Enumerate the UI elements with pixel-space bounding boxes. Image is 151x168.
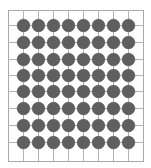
stone-circle: [62, 136, 75, 149]
stone-circle: [107, 85, 120, 98]
stone-circle: [122, 36, 135, 49]
stone-circle: [62, 85, 75, 98]
stone-circle: [92, 53, 105, 66]
stone-circle: [32, 85, 45, 98]
stone-circle: [77, 85, 90, 98]
stone-circle: [17, 102, 30, 115]
stone-circle: [92, 136, 105, 149]
stone-circle: [107, 102, 120, 115]
stone-circle: [62, 19, 75, 32]
stone-circle: [47, 36, 60, 49]
stone-circle: [47, 119, 60, 132]
stone-circle: [17, 53, 30, 66]
stone-circle: [62, 102, 75, 115]
stone-circle: [17, 19, 30, 32]
stone-circle: [62, 36, 75, 49]
stone-circle: [122, 119, 135, 132]
stone-circle: [122, 69, 135, 82]
stone-circle: [32, 53, 45, 66]
grid-diagram: [0, 0, 151, 168]
stone-circle: [107, 136, 120, 149]
stone-circle: [47, 85, 60, 98]
stone-circle: [32, 119, 45, 132]
stone-circle: [32, 36, 45, 49]
stone-circle: [122, 53, 135, 66]
stone-circle: [47, 19, 60, 32]
stone-circle: [92, 19, 105, 32]
stone-circle: [62, 53, 75, 66]
stone-circle: [32, 69, 45, 82]
stone-circle: [47, 53, 60, 66]
stone-circle: [32, 102, 45, 115]
stone-circle: [77, 119, 90, 132]
stone-circle: [92, 85, 105, 98]
stone-circle: [122, 102, 135, 115]
stone-circle: [77, 36, 90, 49]
stone-circle: [107, 36, 120, 49]
stone-circle: [77, 53, 90, 66]
stone-circle: [17, 136, 30, 149]
stone-circle: [62, 119, 75, 132]
stone-circle: [47, 102, 60, 115]
stone-circle: [107, 69, 120, 82]
stone-circle: [122, 19, 135, 32]
stone-circle: [92, 119, 105, 132]
stone-circle: [17, 36, 30, 49]
stone-circle: [77, 69, 90, 82]
stone-circle: [32, 136, 45, 149]
stone-circle: [17, 119, 30, 132]
stone-circle: [32, 19, 45, 32]
stone-circle: [77, 136, 90, 149]
stone-circle: [107, 53, 120, 66]
stone-circle: [47, 136, 60, 149]
stone-circle: [62, 69, 75, 82]
stone-circle: [17, 85, 30, 98]
stone-circle: [47, 69, 60, 82]
stone-circle: [92, 102, 105, 115]
stone-circle: [107, 119, 120, 132]
stone-circle: [17, 69, 30, 82]
stone-circle: [122, 85, 135, 98]
stone-circle: [92, 36, 105, 49]
stone-circle: [122, 136, 135, 149]
stone-circle: [77, 19, 90, 32]
stone-circle: [107, 19, 120, 32]
stone-circle: [77, 102, 90, 115]
stone-circle: [92, 69, 105, 82]
stones: [17, 19, 135, 149]
